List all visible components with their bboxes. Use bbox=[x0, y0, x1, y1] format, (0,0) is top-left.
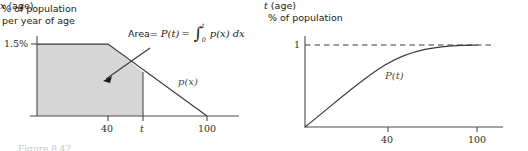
integral-upper-limit: t bbox=[202, 23, 206, 31]
density-ytick-label-0: 1.5% bbox=[4, 38, 28, 49]
differential-dx: dx bbox=[233, 28, 245, 40]
integral-lower-limit: 0 bbox=[202, 37, 206, 45]
figure-caption: Figure 8.42 bbox=[18, 144, 71, 151]
cumulative-xtick-label-0: 40 bbox=[381, 134, 393, 145]
cumulative-xtick-label-1: 100 bbox=[468, 134, 486, 145]
cumulative-curve-label: P(t) bbox=[385, 70, 404, 82]
density-xtick-label-2: 100 bbox=[198, 123, 216, 134]
integral-expression: ∫ t 0 bbox=[194, 26, 206, 41]
area-formula-equals: = bbox=[181, 28, 189, 40]
cumulative-y-axis-label: % of population bbox=[268, 12, 343, 23]
area-formula-function: P(t) bbox=[161, 28, 180, 40]
cumulative-ytick-label-0: 1 bbox=[294, 39, 300, 50]
density-xtick-label-0: 40 bbox=[101, 123, 113, 134]
density-xtick-label-1: t bbox=[140, 123, 144, 134]
density-y-axis-label-line2: per year of age bbox=[2, 15, 75, 26]
density-y-axis-label-line1: % of population bbox=[2, 3, 77, 14]
integrand-expression: p(x) bbox=[210, 28, 230, 40]
area-formula-word: Area= bbox=[128, 28, 158, 39]
chart-density-panel: % of population per year of age 1.5% 40 … bbox=[0, 0, 264, 151]
chart-cumulative-panel: % of population 1 40 100 t (age) P(t) bbox=[264, 0, 528, 151]
area-formula: Area= P(t) = ∫ t 0 p(x) dx bbox=[128, 26, 245, 41]
figure-container: % of population per year of age 1.5% 40 … bbox=[0, 0, 528, 151]
density-curve-label: p(x) bbox=[178, 76, 198, 88]
shaded-area-region bbox=[37, 44, 143, 116]
cumulative-curve bbox=[305, 45, 477, 127]
